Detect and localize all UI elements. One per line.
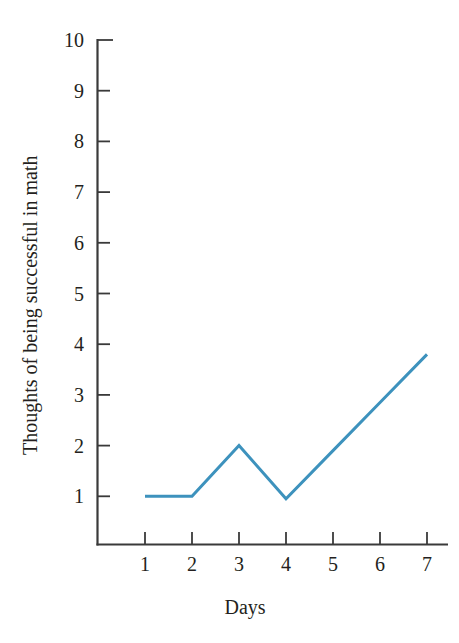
line-chart: 10 9 8 7 6 5 4 3 2 1 1 2 3 4 5 6 7 Thoug… xyxy=(0,0,459,643)
x-tick-label-2: 2 xyxy=(177,554,207,574)
x-tick-label-6: 6 xyxy=(365,554,395,574)
y-tick-marks xyxy=(98,40,113,496)
y-tick-label-5: 5 xyxy=(42,284,84,304)
y-tick-label-2: 2 xyxy=(42,436,84,456)
y-tick-label-7: 7 xyxy=(42,182,84,202)
y-tick-label-3: 3 xyxy=(42,385,84,405)
y-tick-label-1: 1 xyxy=(42,486,84,506)
x-tick-label-3: 3 xyxy=(224,554,254,574)
y-axis-title: Thoughts of being successful in math xyxy=(20,156,40,455)
x-tick-marks xyxy=(145,532,427,544)
x-tick-label-1: 1 xyxy=(130,554,160,574)
y-tick-label-8: 8 xyxy=(42,131,84,151)
data-line-series-1 xyxy=(145,354,427,499)
y-tick-label-6: 6 xyxy=(42,233,84,253)
y-tick-label-10: 10 xyxy=(42,30,84,50)
x-tick-label-7: 7 xyxy=(412,554,442,574)
y-tick-label-9: 9 xyxy=(42,81,84,101)
x-tick-label-4: 4 xyxy=(271,554,301,574)
y-tick-label-4: 4 xyxy=(42,334,84,354)
x-tick-label-5: 5 xyxy=(318,554,348,574)
x-axis-title: Days xyxy=(224,597,265,617)
